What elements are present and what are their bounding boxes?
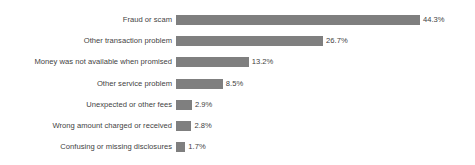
bar-row: Wrong amount charged or received2.8% bbox=[0, 119, 475, 133]
category-label: Money was not available when promised bbox=[0, 57, 172, 67]
bar-row: Unexpected or other fees2.9% bbox=[0, 98, 475, 112]
horizontal-bar-chart: Fraud or scam44.3%Other transaction prob… bbox=[0, 0, 475, 165]
bar-row: Other transaction problem26.7% bbox=[0, 34, 475, 48]
category-label: Fraud or scam bbox=[0, 15, 172, 25]
bar-value-label: 1.7% bbox=[188, 142, 205, 152]
bar bbox=[176, 142, 185, 152]
bar-row: Other service problem8.5% bbox=[0, 77, 475, 91]
bar bbox=[176, 121, 191, 131]
category-label: Unexpected or other fees bbox=[0, 100, 172, 110]
bar-row: Money was not available when promised13.… bbox=[0, 55, 475, 69]
bar-track: 44.3% bbox=[176, 13, 475, 27]
bar-track: 1.7% bbox=[176, 140, 475, 154]
bar bbox=[176, 100, 192, 110]
bar-track: 2.9% bbox=[176, 98, 475, 112]
bar-value-label: 8.5% bbox=[226, 79, 243, 89]
bar-value-label: 44.3% bbox=[423, 15, 445, 25]
bar bbox=[176, 36, 323, 46]
bar-track: 2.8% bbox=[176, 119, 475, 133]
bar-track: 13.2% bbox=[176, 55, 475, 69]
category-label: Other transaction problem bbox=[0, 36, 172, 46]
category-label: Other service problem bbox=[0, 79, 172, 89]
bar-track: 26.7% bbox=[176, 34, 475, 48]
bar-track: 8.5% bbox=[176, 77, 475, 91]
category-label: Confusing or missing disclosures bbox=[0, 142, 172, 152]
bar-value-label: 2.8% bbox=[194, 121, 211, 131]
bar-row: Fraud or scam44.3% bbox=[0, 13, 475, 27]
bar-row: Confusing or missing disclosures1.7% bbox=[0, 140, 475, 154]
category-label: Wrong amount charged or received bbox=[0, 121, 172, 131]
bar bbox=[176, 15, 420, 25]
bar-value-label: 26.7% bbox=[326, 36, 348, 46]
bar-value-label: 2.9% bbox=[195, 100, 212, 110]
bar bbox=[176, 57, 249, 67]
bar bbox=[176, 79, 223, 89]
bar-value-label: 13.2% bbox=[252, 57, 274, 67]
